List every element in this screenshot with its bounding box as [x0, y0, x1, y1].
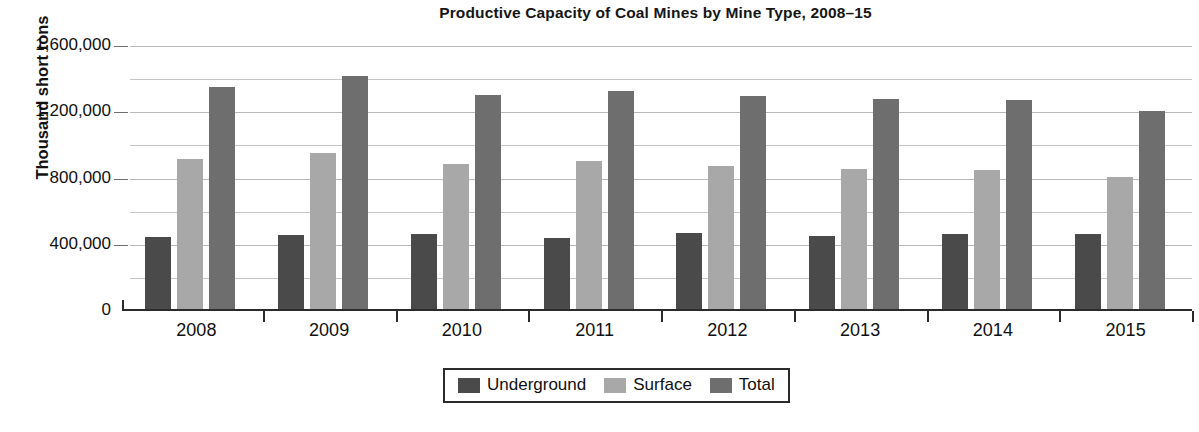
- bar-group: [263, 46, 396, 311]
- legend-swatch-surface: [604, 378, 626, 393]
- bar-underground-2012: [676, 233, 702, 311]
- chart-title-text: Productive Capacity of Coal Mines by Min…: [439, 4, 872, 21]
- legend-swatch-total: [710, 378, 732, 393]
- bar-surface-2011: [576, 161, 602, 311]
- legend-item-underground[interactable]: Underground: [458, 375, 586, 395]
- x-axis-tick-mark: [528, 311, 530, 322]
- chart-legend: UndergroundSurfaceTotal: [443, 368, 790, 403]
- bar-group: [794, 46, 927, 311]
- y-axis-tick-label: 1,600,000: [0, 35, 111, 55]
- bar-group: [661, 46, 794, 311]
- bar-group: [528, 46, 661, 311]
- y-axis-tick-mark: [114, 46, 128, 47]
- bar-total-2014: [1006, 100, 1032, 311]
- bar-surface-2010: [443, 164, 469, 311]
- bar-underground-2014: [942, 234, 968, 312]
- plot-area: 0400,000800,0001,200,0001,600,000: [130, 46, 1192, 311]
- y-axis-tick-label: 800,000: [0, 168, 111, 188]
- bar-surface-2008: [177, 159, 203, 311]
- bar-surface-2012: [708, 166, 734, 311]
- x-axis-tick-mark: [927, 311, 929, 322]
- bar-underground-2013: [809, 236, 835, 311]
- bar-group: [927, 46, 1060, 311]
- x-axis-tick-mark: [661, 311, 663, 322]
- bar-total-2008: [209, 87, 235, 311]
- x-axis-tick-mark: [1192, 311, 1194, 322]
- legend-item-surface[interactable]: Surface: [604, 375, 692, 395]
- legend-swatch-underground: [458, 378, 480, 393]
- bar-group: [1059, 46, 1192, 311]
- x-axis-tick-mark: [263, 311, 265, 322]
- bar-surface-2013: [841, 169, 867, 311]
- x-axis-label-2014: 2014: [933, 320, 1053, 341]
- x-axis-label-2015: 2015: [1066, 320, 1186, 341]
- x-axis-tick-mark: [1059, 311, 1061, 322]
- bar-total-2011: [608, 91, 634, 311]
- bar-total-2010: [475, 95, 501, 311]
- bar-underground-2009: [278, 235, 304, 311]
- legend-label-underground: Underground: [487, 375, 586, 395]
- legend-label-total: Total: [739, 375, 775, 395]
- x-axis-label-2010: 2010: [402, 320, 522, 341]
- bar-underground-2015: [1075, 234, 1101, 311]
- legend-item-total[interactable]: Total: [710, 375, 775, 395]
- x-axis-label-2011: 2011: [535, 320, 655, 341]
- x-axis-label-2008: 2008: [136, 320, 256, 341]
- bar-surface-2014: [974, 170, 1000, 311]
- y-axis-tick-mark: [114, 179, 128, 180]
- x-axis-label-2009: 2009: [269, 320, 389, 341]
- chart-title: Productive Capacity of Coal Mines by Min…: [0, 4, 1199, 22]
- bar-underground-2010: [411, 234, 437, 311]
- bar-group: [130, 46, 263, 311]
- y-axis-tick-label: 1,200,000: [0, 101, 111, 121]
- bar-group: [396, 46, 529, 311]
- y-axis-tick-mark: [114, 112, 128, 113]
- x-axis-tick-mark: [794, 311, 796, 322]
- bar-total-2012: [740, 96, 766, 311]
- legend-label-surface: Surface: [633, 375, 692, 395]
- bar-total-2015: [1139, 111, 1165, 311]
- bar-surface-2009: [310, 153, 336, 311]
- y-axis-spine: [122, 300, 124, 311]
- y-axis-tick-label: 0: [0, 300, 111, 320]
- x-axis-baseline: [122, 309, 1192, 311]
- y-axis-tick-label: 400,000: [0, 234, 111, 254]
- x-axis-label-2012: 2012: [667, 320, 787, 341]
- bar-total-2009: [342, 76, 368, 311]
- bar-surface-2015: [1107, 177, 1133, 311]
- x-axis-tick-mark: [396, 311, 398, 322]
- bar-underground-2011: [544, 238, 570, 311]
- y-axis-tick-mark: [114, 245, 128, 246]
- x-axis-label-2013: 2013: [800, 320, 920, 341]
- bar-total-2013: [873, 99, 899, 311]
- bar-underground-2008: [145, 237, 171, 311]
